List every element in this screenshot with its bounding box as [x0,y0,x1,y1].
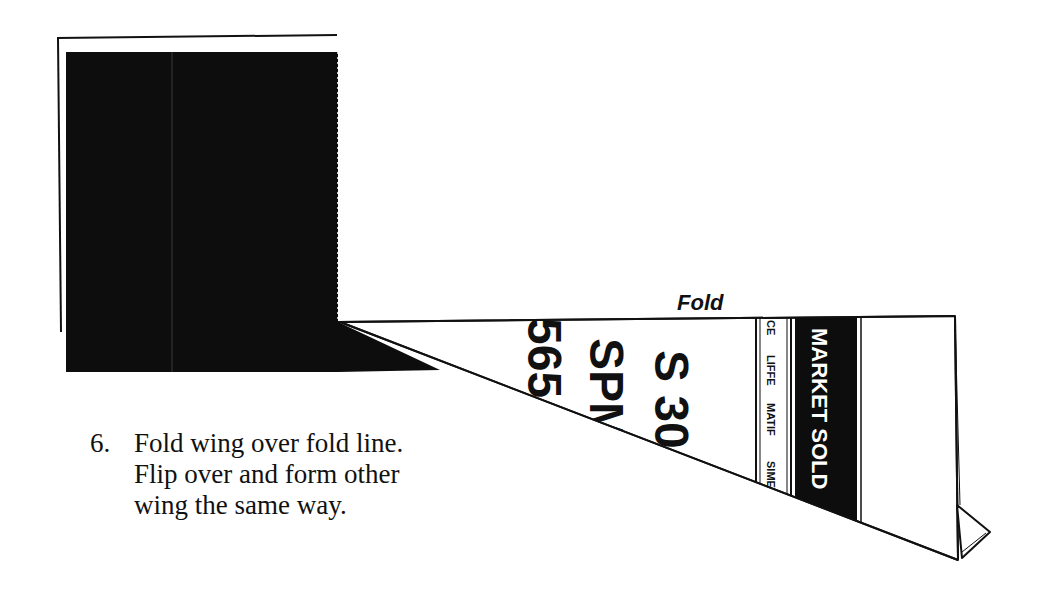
fold-label: Fold [677,290,723,316]
exchange-liffe: LIFFE [765,355,777,386]
folded-wing: 565 SPM S 30 CE LIFFE MATIF SIMEX MARKET… [340,316,958,560]
step-number: 6. [90,428,110,459]
instruction-line-3: wing the same way. [112,490,403,521]
wing-print-565: 565 [518,318,571,398]
wing-print-s30: S 30 [645,350,698,449]
wing-tip-tab [955,316,990,560]
step-instruction: 6. Fold wing over fold line. Flip over a… [112,428,403,521]
exchange-matif: MATIF [765,403,777,436]
exchange-ce: CE [765,320,777,335]
wing-print-spm: SPM [580,338,633,442]
instruction-line-1: Fold wing over fold line. [112,428,403,459]
banner-market-sold: MARKET SOLD [807,328,832,489]
instruction-line-2: Flip over and form other [112,459,403,490]
